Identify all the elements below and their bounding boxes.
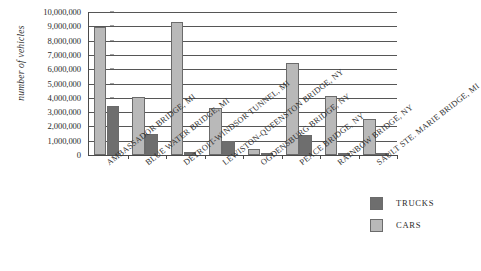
x-axis-tick-mark — [243, 155, 244, 159]
chart-legend: TRUCKS CARS — [370, 192, 462, 236]
y-axis-tick-label: 9,000,000 — [48, 22, 81, 31]
y-axis-title: number of vehicles — [16, 8, 26, 118]
y-axis-tick-label: 3,000,000 — [48, 108, 81, 117]
bar-series-container — [89, 12, 397, 155]
x-axis-tick-mark — [359, 155, 360, 159]
y-axis-tick-label: 4,000,000 — [48, 94, 81, 103]
y-axis-tick-label: 8,000,000 — [48, 36, 81, 45]
bar-trucks[interactable] — [107, 106, 120, 155]
y-axis-tick-label: 1,000,000 — [48, 136, 81, 145]
bar-cars[interactable] — [94, 27, 107, 155]
x-axis-tick-mark — [320, 155, 321, 159]
x-axis-tick-mark — [128, 155, 129, 159]
y-axis-tick-label: 6,000,000 — [48, 65, 81, 74]
y-axis-tick-label: 2,000,000 — [48, 122, 81, 131]
x-axis-tick-mark — [166, 155, 167, 159]
x-axis-tick-mark — [397, 155, 398, 159]
legend-swatch-trucks-icon — [370, 197, 383, 210]
y-axis-tick-label: 5,000,000 — [48, 79, 81, 88]
legend-item-cars[interactable]: CARS — [370, 214, 462, 236]
x-axis-tick-mark — [205, 155, 206, 159]
y-axis-tick-label: 0 — [77, 151, 81, 160]
y-axis-tick-labels: 01,000,0002,000,0003,000,0004,000,0005,0… — [26, 12, 84, 155]
y-axis-tick-label: 7,000,000 — [48, 51, 81, 60]
legend-swatch-cars-icon — [370, 219, 383, 232]
plot-area — [88, 12, 397, 156]
legend-item-trucks[interactable]: TRUCKS — [370, 192, 462, 214]
legend-label-trucks: TRUCKS — [396, 198, 434, 208]
bar-group — [89, 12, 128, 155]
bar-cars[interactable] — [248, 149, 261, 155]
legend-label-cars: CARS — [396, 220, 421, 230]
y-axis-tick-label: 10,000,000 — [43, 8, 81, 17]
x-axis-tick-mark — [282, 155, 283, 159]
